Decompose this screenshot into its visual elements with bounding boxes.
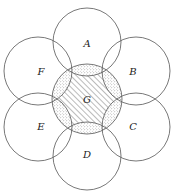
label-b: B xyxy=(128,66,136,77)
diagram-canvas: ABCDEF G xyxy=(0,0,173,192)
label-c: C xyxy=(129,121,137,132)
label-a: A xyxy=(82,38,90,49)
label-d: D xyxy=(82,149,91,160)
circles-diagram: ABCDEF G xyxy=(0,0,173,192)
label-f: F xyxy=(37,66,46,77)
label-g: G xyxy=(83,94,91,105)
label-e: E xyxy=(36,121,45,132)
